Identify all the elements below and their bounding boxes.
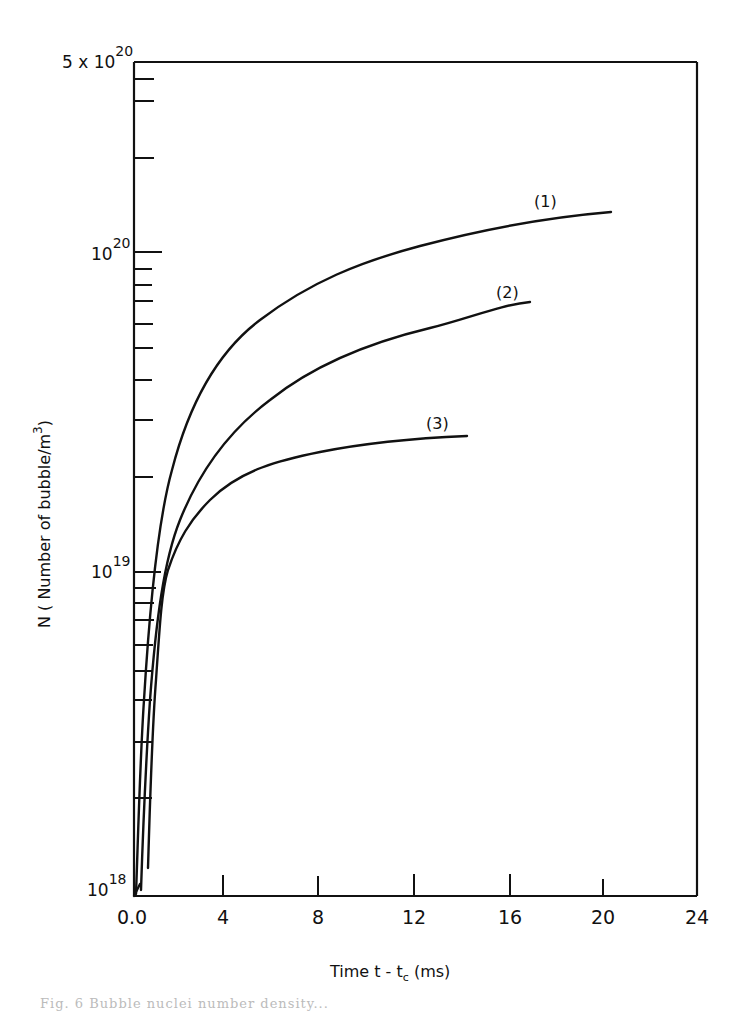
series-label-2: (2) xyxy=(496,283,519,302)
x-tick-label: 24 xyxy=(685,906,709,928)
x-tick-labels: 0.0 4 8 12 16 20 24 xyxy=(117,906,709,928)
series-label-3: (3) xyxy=(426,414,449,433)
y-tick-1e18-base: 10 xyxy=(87,880,109,900)
y-axis-title: N ( Number of bubble/m3) xyxy=(31,420,54,628)
curve-2 xyxy=(141,302,530,890)
x-tick-label: 16 xyxy=(498,906,522,928)
x-tick-label: 0.0 xyxy=(117,906,147,928)
y-axis-ticks xyxy=(134,79,162,798)
x-tick-label: 12 xyxy=(402,906,426,928)
y-tick-5e20-exp: 20 xyxy=(115,43,133,59)
x-tick-label: 8 xyxy=(312,906,324,928)
y-tick-5e20-base: 5 x 10 xyxy=(62,52,115,72)
plot-frame xyxy=(134,62,697,896)
svg-text:5 x 1020: 5 x 1020 xyxy=(62,43,133,72)
x-axis-title: Time t - tc (ms) xyxy=(329,962,450,984)
y-tick-1e20-base: 10 xyxy=(91,244,113,264)
x-tick-label: 20 xyxy=(591,906,615,928)
y-tick-1e18-exp: 18 xyxy=(109,871,127,887)
svg-text:1020: 1020 xyxy=(91,235,130,264)
x-tick-label: 4 xyxy=(217,906,229,928)
y-tick-labels: 5 x 1020 1020 1019 1018 xyxy=(62,43,133,900)
svg-text:1018: 1018 xyxy=(87,871,126,900)
y-tick-1e19-exp: 19 xyxy=(113,553,131,569)
figure-caption: Fig. 6 Bubble nuclei number density... xyxy=(40,996,329,1011)
series-curves xyxy=(134,212,611,896)
curve-3 xyxy=(148,436,467,868)
svg-text:1019: 1019 xyxy=(91,553,130,582)
curve-1 xyxy=(136,212,611,894)
series-label-1: (1) xyxy=(534,192,557,211)
x-axis-ticks xyxy=(223,874,603,896)
y-tick-1e19-base: 10 xyxy=(91,562,113,582)
y-tick-1e20-exp: 20 xyxy=(113,235,131,251)
